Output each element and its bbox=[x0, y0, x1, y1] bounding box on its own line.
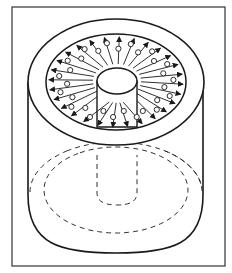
particle-circle bbox=[58, 90, 63, 95]
particle-circle bbox=[128, 42, 133, 47]
particle-circle bbox=[104, 41, 109, 46]
particle-circle bbox=[68, 68, 73, 73]
particle-circle bbox=[151, 58, 156, 63]
particle-circle bbox=[96, 48, 101, 53]
particle-circle bbox=[69, 104, 74, 109]
particle-circle bbox=[65, 81, 70, 86]
particle-circle bbox=[82, 47, 87, 52]
diagram-canvas bbox=[0, 0, 232, 273]
particle-circle bbox=[101, 108, 106, 113]
particle-circle bbox=[111, 114, 116, 119]
particle-circle bbox=[136, 50, 141, 55]
particle-circle bbox=[134, 114, 139, 119]
particle-circle bbox=[167, 93, 172, 98]
particle-circle bbox=[70, 95, 75, 100]
particle-circle bbox=[65, 58, 70, 63]
particle-circle bbox=[140, 108, 145, 113]
particle-circle bbox=[165, 62, 170, 67]
particle-circle bbox=[150, 49, 155, 54]
hidden-post-dashed bbox=[97, 155, 137, 205]
particle-circle bbox=[57, 73, 62, 78]
particle-circle bbox=[171, 77, 176, 82]
particle-circle bbox=[79, 56, 84, 61]
particle-circle bbox=[154, 107, 159, 112]
hidden-inner-base-dashed bbox=[44, 147, 188, 233]
particle-circle bbox=[161, 71, 166, 76]
particle-circle bbox=[121, 108, 126, 113]
particle-circle bbox=[83, 105, 88, 110]
particle-circle bbox=[155, 98, 160, 103]
particle-circle bbox=[87, 114, 92, 119]
cylinder-radial-flow-diagram bbox=[0, 0, 232, 273]
particle-circle bbox=[116, 46, 121, 51]
particle-circle bbox=[162, 85, 167, 90]
central-post-top bbox=[97, 68, 137, 94]
